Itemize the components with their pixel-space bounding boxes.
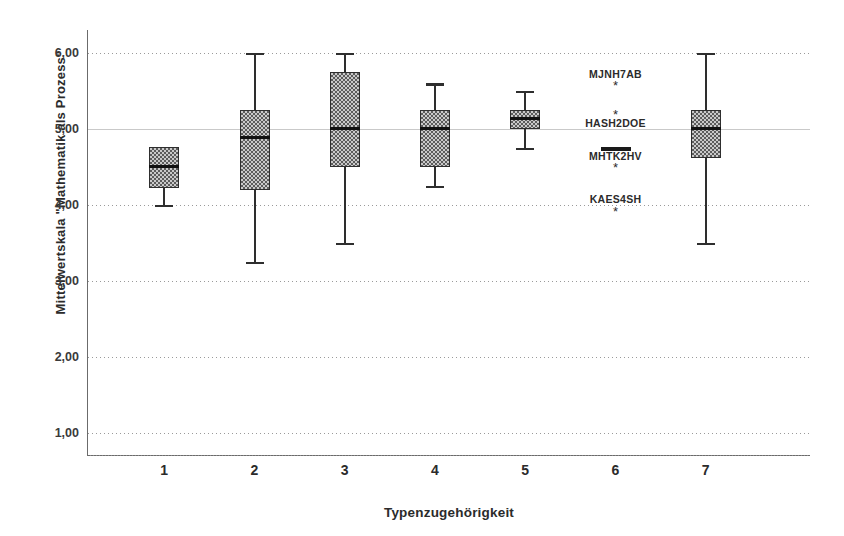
boxplot-whisker-cap-upper [426,83,444,86]
boxplot-box [420,110,450,167]
boxplot-whisker-upper [254,53,256,110]
boxplot-whisker-upper [434,83,436,110]
gridline [88,433,810,434]
boxplot-whisker-lower [524,129,526,148]
boxplot-whisker-upper [344,53,346,72]
outlier-label: KAES4SH [590,193,642,205]
gridline [88,205,810,206]
x-tick-label: 5 [521,462,529,478]
x-tick-label: 6 [612,462,620,478]
x-tick-label: 2 [251,462,259,478]
boxplot-whisker-cap-lower [155,205,173,208]
boxplot-whisker-cap-upper [516,91,534,94]
y-tick-label: 6,00 [55,46,79,60]
boxplot-box [240,110,270,190]
boxplot-whisker-lower [344,167,346,243]
outlier-label: MJNH7AB [589,68,642,80]
outlier-label: MHTK2HV [589,150,642,162]
boxplot-whisker-cap-lower [336,243,354,246]
boxplot-whisker-upper [524,91,526,110]
x-axis-title: Typenzugehörigkeit [88,505,810,520]
boxplot-whisker-cap-upper [697,53,715,56]
gridline [88,281,810,282]
outlier-marker: * [613,160,618,173]
x-axis-line [88,455,810,456]
outlier-label: HASH2DOE [585,117,646,129]
y-tick-label: 5,00 [55,122,79,136]
boxplot-median-line [330,127,360,130]
boxplot-median-line [420,127,450,130]
x-tick-label: 1 [160,462,168,478]
y-tick-label: 2,00 [55,350,79,364]
boxplot-whisker-lower [705,158,707,243]
boxplot-median-line [691,127,721,130]
boxplot-whisker-lower [254,190,256,262]
x-tick-label: 7 [702,462,710,478]
boxplot-whisker-cap-lower [246,262,264,265]
boxplot-whisker-cap-lower [516,148,534,151]
gridline [88,357,810,358]
y-tick-label: 1,00 [55,426,79,440]
plot-area: 1,002,003,004,005,006,00*MJNH7AB*HASH2DO… [88,30,810,455]
outlier-marker: * [613,78,618,91]
boxplot-whisker-upper [705,53,707,110]
boxplot-median-line [240,136,270,139]
boxplot-whisker-lower [434,167,436,186]
boxplot-figure: Mittelwertskala "Mathematik als Prozess"… [0,0,844,536]
boxplot-whisker-lower [163,188,165,205]
y-tick-label: 4,00 [55,198,79,212]
x-tick-label: 3 [341,462,349,478]
boxplot-whisker-cap-upper [336,53,354,56]
boxplot-box [330,72,360,167]
x-tick-label: 4 [431,462,439,478]
boxplot-whisker-cap-lower [697,243,715,246]
boxplot-median-line [510,117,540,120]
boxplot-whisker-cap-lower [426,186,444,189]
boxplot-box [691,110,721,158]
y-tick-label: 3,00 [55,274,79,288]
outlier-marker: * [613,204,618,217]
boxplot-median-line [149,165,179,168]
boxplot-whisker-cap-upper [246,53,264,56]
